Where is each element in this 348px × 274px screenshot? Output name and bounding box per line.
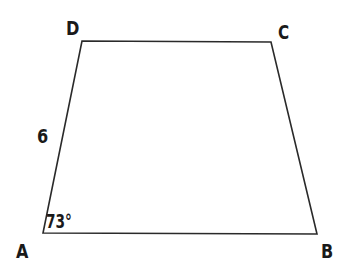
- trapezoid-diagram: D C A B 6 73°: [0, 0, 348, 274]
- angle-label-a: 73°: [46, 211, 72, 233]
- vertex-label-a: A: [16, 239, 28, 262]
- vertex-label-d: D: [66, 18, 79, 40]
- side-label-ad: 6: [37, 126, 48, 148]
- trapezoid-abcd: [43, 41, 317, 234]
- vertex-label-b: B: [321, 239, 333, 262]
- vertex-label-c: C: [278, 21, 289, 43]
